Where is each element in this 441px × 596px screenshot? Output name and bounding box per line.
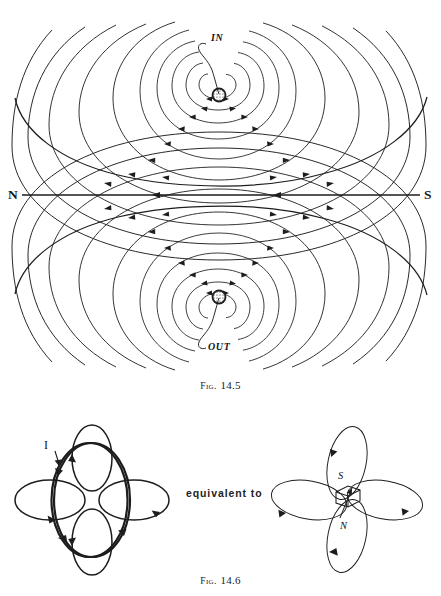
fig-14-5-caption: Fig. 14.5: [0, 375, 441, 393]
equivalent-to-text: equivalent to: [186, 487, 262, 499]
current-loop-diagram: [15, 425, 169, 575]
leader-line-in: [198, 43, 219, 94]
bar-magnet-body: [336, 486, 360, 507]
ns-axis: [22, 192, 420, 198]
field-loop-left: [15, 480, 85, 520]
magnet-pole-south-label: S: [338, 470, 343, 481]
current-direction-out-label: OUT: [208, 341, 230, 352]
fig-14-6-drawing: [0, 408, 441, 593]
fig-14-5-caption-prefix: Fig.: [200, 381, 216, 391]
pole-north-label: N: [8, 187, 18, 203]
current-label-arrow: [50, 450, 74, 472]
current-direction-in-label: IN: [211, 32, 223, 43]
current-label-I: I: [44, 438, 48, 453]
fig-14-5-caption-number: 14.5: [221, 379, 241, 391]
field-lines-bottom: [12, 132, 427, 370]
magnet-arrow-top: [330, 449, 337, 457]
bar-magnet-diagram: [268, 423, 425, 576]
figure-page: IN OUT N S Fig. 14.5: [0, 0, 441, 596]
fig-14-6-caption-prefix: Fig.: [200, 576, 216, 586]
magnet-arrow-bottom: [329, 548, 338, 556]
fig-14-5-drawing: [0, 0, 441, 385]
field-lines-top: [12, 22, 427, 260]
magnet-arrow-right: [402, 508, 409, 516]
field-loop-bottom: [72, 509, 112, 575]
fig-14-6-caption: Fig. 14.6: [0, 570, 441, 588]
fig-14-6-caption-number: 14.6: [221, 574, 241, 586]
wire-cross-section-in: [212, 88, 227, 103]
magnet-arrow-left: [278, 510, 286, 518]
magnet-pole-north-label: N: [340, 520, 347, 531]
pole-south-label: S: [424, 187, 432, 203]
wire-cross-section-out: [212, 290, 227, 305]
field-loop-top: [72, 425, 112, 491]
